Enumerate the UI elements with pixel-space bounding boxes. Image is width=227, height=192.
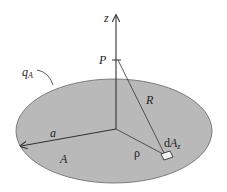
rho-label: ρ — [134, 146, 140, 160]
charge-label: qA — [22, 65, 33, 80]
point-p-label: P — [98, 53, 107, 67]
charged-disk — [16, 79, 212, 183]
distance-r-label: R — [145, 93, 154, 107]
disk-diagram: z P qA R a A ρ dAz — [0, 0, 227, 192]
charge-leader-curve — [37, 70, 53, 85]
area-a-label: A — [59, 152, 68, 166]
z-axis-label: z — [103, 11, 109, 25]
radius-a-label: a — [50, 126, 56, 140]
